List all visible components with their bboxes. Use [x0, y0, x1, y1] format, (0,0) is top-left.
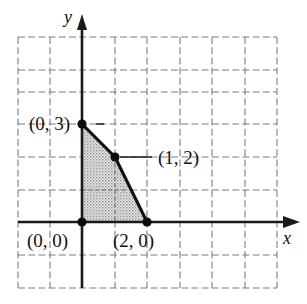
- figure-canvas: [0, 0, 307, 304]
- point-label-1-2: (1, 2): [158, 147, 199, 169]
- vertex-1-2: [110, 152, 119, 161]
- vertex-0-0: [77, 217, 86, 226]
- point-label-0-3: (0, 3): [29, 113, 70, 135]
- vertex-0-3: [77, 119, 86, 128]
- coordinate-grid-figure: (0, 3) (1, 2) (0, 0) (2, 0) y x: [0, 0, 307, 304]
- x-axis-label: x: [283, 228, 291, 249]
- x-axis: [18, 216, 300, 228]
- vertex-2-0: [142, 217, 151, 226]
- point-label-0-0: (0, 0): [27, 230, 68, 252]
- y-axis-label: y: [64, 7, 72, 28]
- x-axis-arrowhead: [283, 216, 300, 228]
- point-label-2-0: (2, 0): [113, 230, 154, 252]
- y-axis-arrowhead: [77, 14, 87, 30]
